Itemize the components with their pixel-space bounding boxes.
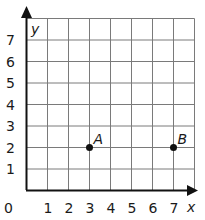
x-axis-label: x xyxy=(186,199,196,215)
x-tick-labels: 01234567 xyxy=(4,200,178,216)
coordinate-grid: y x 01234567 1234567 AB xyxy=(0,0,205,220)
y-tick-label: 5 xyxy=(6,75,15,91)
y-tick-label: 2 xyxy=(6,140,15,156)
y-tick-label: 4 xyxy=(6,97,15,113)
x-tick-label: 1 xyxy=(44,200,53,216)
x-tick-label: 3 xyxy=(86,200,95,216)
y-axis-arrow-icon xyxy=(21,6,32,18)
y-tick-label: 3 xyxy=(6,118,15,134)
y-tick-labels: 1234567 xyxy=(6,32,15,177)
y-tick-label: 7 xyxy=(6,32,15,48)
y-axis-label: y xyxy=(30,21,40,37)
x-tick-label: 2 xyxy=(65,200,74,216)
x-axis-arrow-icon xyxy=(187,185,198,196)
y-tick-label: 1 xyxy=(6,161,15,177)
x-tick-label: 5 xyxy=(128,200,137,216)
point-a-label: A xyxy=(93,131,104,147)
point-b-label: B xyxy=(178,131,188,147)
x-tick-label: 7 xyxy=(170,200,179,216)
x-tick-label: 6 xyxy=(149,200,158,216)
point-b-marker xyxy=(170,144,177,151)
point-a-marker xyxy=(86,144,93,151)
y-tick-label: 6 xyxy=(6,54,15,70)
x-tick-label: 0 xyxy=(4,200,13,216)
x-tick-label: 4 xyxy=(107,200,116,216)
